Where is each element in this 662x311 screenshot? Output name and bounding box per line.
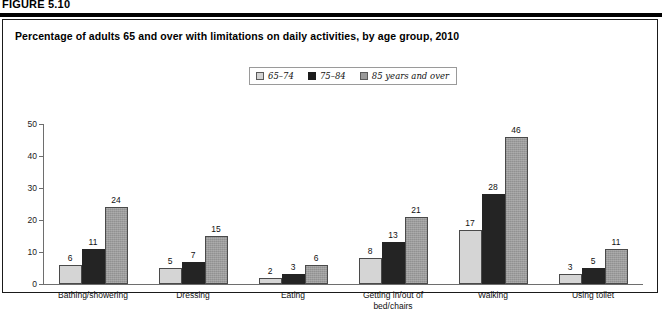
- bar-group: 236Eating: [243, 124, 343, 284]
- bar[interactable]: 17: [459, 230, 482, 284]
- y-axis-tick: [39, 284, 43, 285]
- bar-value-label: 6: [314, 253, 319, 263]
- x-axis-category-label: Using toilet: [572, 290, 614, 301]
- figure-label: FIGURE 5.10: [2, 0, 70, 10]
- bar-value-label: 24: [111, 195, 120, 205]
- bar-group-bars: 3511: [543, 124, 643, 284]
- x-axis-category-label: Dressing: [176, 290, 210, 301]
- bar-value-label: 15: [211, 224, 220, 234]
- bar-groups: 61124Bathing/showering5715Dressing236Eat…: [43, 124, 643, 284]
- y-axis-tick-label: 50: [11, 119, 37, 129]
- bar-value-label: 17: [465, 218, 474, 228]
- bar[interactable]: 7: [182, 262, 205, 284]
- bar-value-label: 13: [388, 230, 397, 240]
- medium-gray-swatch-icon: [360, 72, 368, 80]
- legend-item-85-over[interactable]: 85 years and over: [360, 71, 449, 81]
- bar-group-bars: 172846: [443, 124, 543, 284]
- bar-group-bars: 236: [243, 124, 343, 284]
- legend-item-75-84[interactable]: 75–84: [308, 71, 346, 81]
- bar[interactable]: 2: [259, 278, 282, 284]
- bar[interactable]: 15: [205, 236, 228, 284]
- bar-group-bars: 5715: [143, 124, 243, 284]
- y-axis-tick-label: 20: [11, 215, 37, 225]
- bar[interactable]: 5: [159, 268, 182, 284]
- bar-value-label: 28: [488, 182, 497, 192]
- bar-value-label: 6: [68, 253, 73, 263]
- bar[interactable]: 13: [382, 242, 405, 284]
- bar-group: 61124Bathing/showering: [43, 124, 143, 284]
- bar-value-label: 7: [191, 250, 196, 260]
- bar-value-label: 11: [612, 237, 621, 247]
- bar-value-label: 11: [89, 237, 98, 247]
- bar[interactable]: 3: [282, 274, 305, 284]
- page-title: Percentage of adults 65 and over with li…: [15, 30, 459, 42]
- bar[interactable]: 11: [82, 249, 105, 284]
- bar-group: 3511Using toilet: [543, 124, 643, 284]
- bar[interactable]: 28: [482, 194, 505, 284]
- bar-group-bars: 81321: [343, 124, 443, 284]
- bar[interactable]: 21: [405, 217, 428, 284]
- x-axis-category-label: Walking: [478, 290, 508, 301]
- bar-value-label: 5: [168, 256, 173, 266]
- bar-group: 81321Getting in/out ofbed/chairs: [343, 124, 443, 284]
- bar[interactable]: 24: [105, 207, 128, 284]
- bar[interactable]: 46: [505, 137, 528, 284]
- bar[interactable]: 6: [59, 265, 82, 284]
- bar-value-label: 21: [411, 205, 420, 215]
- chart-panel: Percentage of adults 65 and over with li…: [2, 19, 658, 293]
- bar-group: 5715Dressing: [143, 124, 243, 284]
- bar[interactable]: 6: [305, 265, 328, 284]
- bar-group: 172846Walking: [443, 124, 543, 284]
- legend-label: 65–74: [268, 71, 294, 81]
- bar-value-label: 8: [368, 246, 373, 256]
- x-axis-category-label: Eating: [281, 290, 305, 301]
- x-axis-category-label: Bathing/showering: [58, 290, 128, 301]
- legend-label: 75–84: [320, 71, 346, 81]
- legend-label: 85 years and over: [372, 71, 449, 81]
- bar[interactable]: 3: [559, 274, 582, 284]
- bar[interactable]: 8: [359, 258, 382, 284]
- y-axis-tick-label: 40: [11, 151, 37, 161]
- chart-legend: 65–74 75–84 85 years and over: [249, 67, 457, 85]
- plot-area: 01020304050 61124Bathing/showering5715Dr…: [43, 124, 643, 284]
- bar-group-bars: 61124: [43, 124, 143, 284]
- bar-value-label: 5: [591, 256, 596, 266]
- black-swatch-icon: [308, 72, 316, 80]
- bar[interactable]: 5: [582, 268, 605, 284]
- y-axis-tick-label: 30: [11, 183, 37, 193]
- legend-item-65-74[interactable]: 65–74: [256, 71, 294, 81]
- header-rule: [0, 13, 662, 17]
- x-axis-line: [43, 284, 643, 285]
- y-axis-tick-label: 10: [11, 247, 37, 257]
- bar-value-label: 2: [268, 266, 273, 276]
- y-axis-tick-label: 0: [11, 279, 37, 289]
- bar-value-label: 3: [568, 262, 573, 272]
- light-gray-swatch-icon: [256, 72, 264, 80]
- bar-value-label: 3: [291, 262, 296, 272]
- bar-value-label: 46: [511, 125, 520, 135]
- x-axis-category-label: Getting in/out ofbed/chairs: [363, 290, 423, 311]
- bar[interactable]: 11: [605, 249, 628, 284]
